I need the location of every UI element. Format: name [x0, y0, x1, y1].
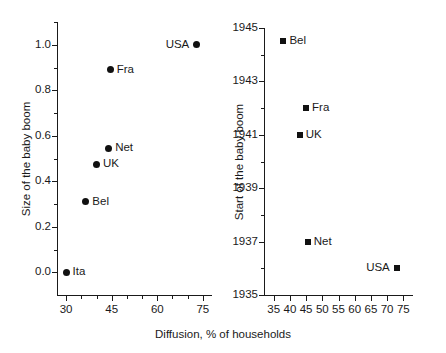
- left-point-label: Ita: [73, 266, 86, 278]
- left-y-axis-line: [57, 22, 58, 295]
- left-x-minor-tick: [127, 296, 128, 299]
- right-point-label: Net: [314, 236, 332, 248]
- left-y-tick-label: 0.8: [9, 84, 51, 96]
- left-y-tick-label: 1.0: [9, 39, 51, 51]
- right-x-tick: [387, 296, 388, 301]
- right-x-tick-label: 75: [387, 304, 419, 316]
- right-data-point: [303, 105, 309, 111]
- chart-panel-right: 1935193719391941194319453540455055606570…: [223, 0, 446, 353]
- right-x-tick: [290, 296, 291, 301]
- left-x-tick: [112, 296, 113, 301]
- left-y-minor-tick: [54, 204, 57, 205]
- left-y-tick: [52, 90, 57, 91]
- left-point-label: Bel: [92, 196, 109, 208]
- left-x-minor-tick: [172, 296, 173, 299]
- right-y-axis-line: [264, 28, 265, 295]
- right-y-tick-label: 1935: [216, 289, 258, 301]
- right-data-point: [394, 265, 400, 271]
- left-y-tick-label: 0.2: [9, 221, 51, 233]
- right-data-point: [280, 38, 286, 44]
- right-x-tick: [371, 296, 372, 301]
- left-point-label: Net: [115, 142, 133, 154]
- right-data-point: [305, 239, 311, 245]
- right-y-tick: [259, 295, 264, 296]
- left-data-point: [82, 198, 89, 205]
- right-y-axis-title: Start of the baby boom: [233, 103, 245, 219]
- left-x-tick: [66, 296, 67, 301]
- scatter-figure: 0.00.20.40.60.81.030456075 ItaBelUKNetFr…: [0, 0, 446, 353]
- left-y-tick: [52, 45, 57, 46]
- left-data-point: [193, 41, 200, 48]
- left-y-tick: [52, 181, 57, 182]
- right-x-tick: [355, 296, 356, 301]
- right-x-tick: [339, 296, 340, 301]
- right-y-tick: [259, 81, 264, 82]
- left-y-minor-tick: [54, 250, 57, 251]
- right-y-tick: [259, 135, 264, 136]
- left-point-label: Fra: [117, 64, 134, 76]
- right-x-tick: [306, 296, 307, 301]
- right-x-tick: [274, 296, 275, 301]
- right-point-label: USA: [366, 262, 390, 274]
- left-y-tick: [52, 136, 57, 137]
- right-y-minor-tick: [261, 162, 264, 163]
- left-y-axis-title: Size of the baby boom: [20, 101, 32, 215]
- left-point-label: USA: [166, 39, 190, 51]
- left-x-tick-label: 30: [50, 304, 82, 316]
- left-x-tick: [157, 296, 158, 301]
- right-y-tick-label: 1943: [216, 75, 258, 87]
- left-point-label: UK: [103, 158, 119, 170]
- shared-x-axis-title: Diffusion, % of households: [155, 328, 291, 340]
- left-x-tick-label: 45: [96, 304, 128, 316]
- left-y-minor-tick: [54, 68, 57, 69]
- left-x-tick: [203, 296, 204, 301]
- left-y-tick: [52, 227, 57, 228]
- right-point-label: Fra: [312, 102, 329, 114]
- chart-panel-left: 0.00.20.40.60.81.030456075 ItaBelUKNetFr…: [0, 0, 223, 353]
- left-x-minor-tick: [97, 296, 98, 299]
- left-data-point: [93, 161, 100, 168]
- right-x-tick: [322, 296, 323, 301]
- right-y-minor-tick: [261, 108, 264, 109]
- right-y-minor-tick: [261, 55, 264, 56]
- left-data-point: [63, 269, 70, 276]
- left-x-tick-label: 75: [187, 304, 219, 316]
- left-x-minor-tick: [81, 296, 82, 299]
- right-point-label: UK: [306, 129, 322, 141]
- right-y-tick-label: 1937: [216, 236, 258, 248]
- right-y-minor-tick: [261, 215, 264, 216]
- right-y-tick: [259, 28, 264, 29]
- left-y-minor-tick: [54, 22, 57, 23]
- left-x-minor-tick: [188, 296, 189, 299]
- left-y-minor-tick: [54, 159, 57, 160]
- right-x-tick: [403, 296, 404, 301]
- right-y-tick: [259, 242, 264, 243]
- left-x-tick-label: 60: [141, 304, 173, 316]
- left-y-tick: [52, 272, 57, 273]
- right-data-point: [297, 132, 303, 138]
- right-y-tick: [259, 188, 264, 189]
- left-y-tick-label: 0.0: [9, 266, 51, 278]
- left-x-minor-tick: [142, 296, 143, 299]
- right-point-label: Bel: [289, 35, 306, 47]
- right-y-minor-tick: [261, 268, 264, 269]
- left-data-point: [107, 66, 114, 73]
- left-data-point: [105, 145, 112, 152]
- left-y-minor-tick: [54, 113, 57, 114]
- right-y-tick-label: 1945: [216, 22, 258, 34]
